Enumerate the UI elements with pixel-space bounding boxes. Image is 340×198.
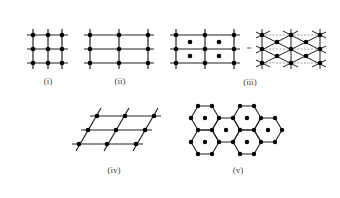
panel-label-iv: (iv)	[108, 165, 121, 175]
panel-label-i: (i)	[44, 76, 53, 86]
panel-label-v: (v)	[233, 165, 244, 175]
panel-label-iii: (iii)	[243, 77, 257, 87]
oblique-lattice-points	[77, 114, 157, 147]
panel-label-ii: (ii)	[115, 76, 126, 86]
equals-sign: =	[246, 43, 251, 53]
lattice-diagram	[0, 0, 340, 198]
